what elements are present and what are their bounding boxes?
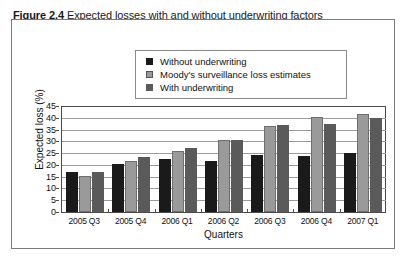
legend-item: Moody's surveillance loss estimates [136,68,346,81]
bar-group [293,106,339,212]
x-axis-tick-label: 2006 Q1 [154,216,200,226]
bar [251,155,263,212]
bar-group [155,106,201,212]
bar [159,159,171,212]
x-axis-tick-label: 2007 Q1 [340,216,386,226]
y-axis-tick-label: 15 [46,173,56,182]
y-axis-tick-label: 25 [46,149,56,158]
y-axis-tick-mark [56,200,59,201]
bar [231,140,243,212]
x-axis-tick-label: 2006 Q3 [247,216,293,226]
y-axis-tick-mark [56,118,59,119]
bar [311,117,323,212]
x-axis-tick-label: 2005 Q4 [107,216,153,226]
y-axis-tick-labels: 454035302520151050 [38,100,59,218]
legend-item-label: Without underwriting [160,55,247,68]
y-axis-tick-mark [56,188,59,189]
bar [218,140,230,212]
y-axis-tick-label: 35 [46,126,56,135]
legend-item-label: Moody's surveillance loss estimates [160,68,311,81]
bar-group [108,106,154,212]
legend-item: With underwriting [136,81,346,94]
bar [79,176,91,212]
y-axis-tick-mark [56,106,59,107]
chart-legend: Without underwritingMoody's surveillance… [135,50,347,99]
bar-group [247,106,293,212]
legend-item: Without underwriting [136,55,346,68]
y-axis-tick-mark [56,141,59,142]
bar [370,118,382,212]
y-axis-tick-mark [56,212,59,213]
bar [277,125,289,212]
y-axis-tick-mark [56,165,59,166]
x-axis-tick-label: 2005 Q3 [61,216,107,226]
legend-swatch-dark-gray [146,84,153,91]
bar-group [201,106,247,212]
legend-swatch-gray [146,71,153,78]
bars-layer [62,106,386,212]
y-axis-tick-label: 40 [46,114,56,123]
bar [298,156,310,212]
x-axis-tick-label: 2006 Q2 [200,216,246,226]
bar [264,126,276,212]
y-axis-tick-mark [56,177,59,178]
y-axis-tick-mark [56,153,59,154]
y-axis-tick-label: 45 [46,102,56,111]
x-axis-title: Quarters [61,229,386,240]
y-axis-tick-label: 30 [46,137,56,146]
bar-group [62,106,108,212]
bar [125,161,137,212]
x-axis-tick-label: 2006 Q4 [293,216,339,226]
bar [66,172,78,212]
bar [357,114,369,212]
figure-frame: Without underwritingMoody's surveillance… [11,19,395,249]
y-axis-tick-label: 10 [46,184,56,193]
bar [112,164,124,212]
bar [324,124,336,212]
bar-group [340,106,386,212]
y-axis-tick-label: 20 [46,161,56,170]
legend-swatch-black [146,58,153,65]
plot-area [61,106,386,213]
bar [138,157,150,212]
bar [344,153,356,212]
bar [92,172,104,212]
bar [185,148,197,212]
x-axis-tick-labels: 2005 Q32005 Q42006 Q12006 Q22006 Q32006 … [61,216,386,226]
legend-item-label: With underwriting [160,81,233,94]
y-axis-tick-mark [56,130,59,131]
bar [205,161,217,212]
bar [172,151,184,212]
